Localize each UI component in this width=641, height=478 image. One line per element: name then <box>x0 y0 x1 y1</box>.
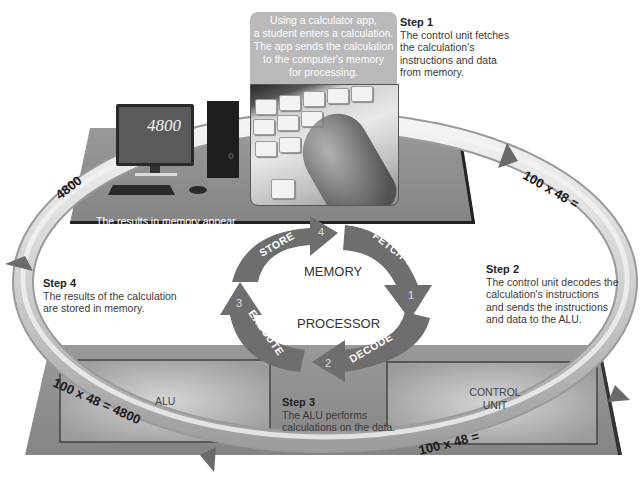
step-4-line: are stored in memory. <box>43 302 177 315</box>
mouse-icon <box>189 186 207 194</box>
control-unit-label-line: CONTROL <box>460 386 530 399</box>
keyboard-icon <box>108 185 175 195</box>
cycle-number-2: 2 <box>325 357 331 369</box>
tower-icon <box>207 101 239 178</box>
step-4-description: Step 4 The results of the calculation ar… <box>43 277 177 315</box>
control-unit-label-line: UNIT <box>460 399 530 412</box>
step-3-description: Step 3 The ALU performs calculations on … <box>282 396 395 434</box>
callout-line: a student enters a calculation. <box>250 27 397 40</box>
step-3-title: Step 3 <box>282 396 395 409</box>
cycle-number-1: 1 <box>408 289 414 301</box>
step-1-line: instructions and data <box>400 54 509 67</box>
step-2-line: The control unit decodes the <box>486 276 619 289</box>
control-unit-label: CONTROL UNIT <box>460 386 530 412</box>
step-3-line: calculations on the data. <box>282 421 395 434</box>
step-1-line: the calculation's <box>400 41 509 54</box>
cycle-number-3: 3 <box>236 297 242 309</box>
callout-line: to the computer's memory <box>250 53 397 66</box>
step-2-line: calculation's instructions <box>486 288 619 301</box>
monitor-caption-line: The results in memory appear <box>96 215 235 228</box>
step-3-line: The ALU performs <box>282 409 395 422</box>
step-2-line: and sends the instructions <box>486 301 619 314</box>
step-4-title: Step 4 <box>43 277 177 290</box>
processor-label: PROCESSOR <box>297 316 380 331</box>
step-2-title: Step 2 <box>486 263 619 276</box>
cycle-number-4: 4 <box>318 226 324 238</box>
callout-line: The app sends the calculation <box>250 40 397 53</box>
alu-label: ALU <box>155 395 175 408</box>
monitor-caption-line: on the screen of the monitor. <box>96 228 235 241</box>
step-1-line: The control unit fetches <box>400 29 509 42</box>
monitor-caption: The results in memory appear on the scre… <box>96 215 235 241</box>
memory-label: MEMORY <box>304 264 362 279</box>
keyboard-photo <box>250 84 399 206</box>
callout-line: for processing. <box>250 66 397 79</box>
ring-arrow-right-icon <box>608 385 630 402</box>
step-1-title: Step 1 <box>400 16 509 29</box>
step-1-line: from memory. <box>400 66 509 79</box>
step-1-description: Step 1 The control unit fetches the calc… <box>400 16 509 79</box>
step-4-line: The results of the calculation <box>43 290 177 303</box>
step-2-line: and data to the ALU. <box>486 313 619 326</box>
monitor-display-value: 4800 <box>147 116 181 136</box>
step-2-description: Step 2 The control unit decodes the calc… <box>486 263 619 326</box>
callout-line: Using a calculator app, <box>250 14 397 27</box>
